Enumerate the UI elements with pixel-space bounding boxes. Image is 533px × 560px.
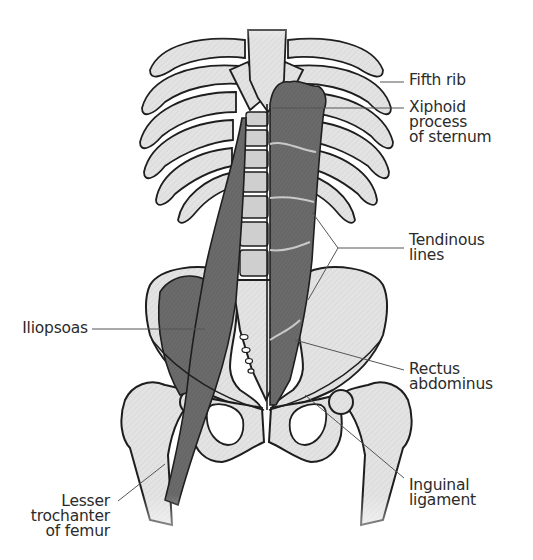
anatomy-diagram: Fifth rib Xiphoid process of sternum Ten… xyxy=(0,0,533,560)
label-rectus-abdominus: Rectus abdominus xyxy=(409,362,493,392)
label-inguinal-ligament: Inguinal ligament xyxy=(409,478,476,508)
label-fifth-rib: Fifth rib xyxy=(409,73,466,88)
label-tendinous-lines: Tendinous lines xyxy=(409,233,485,263)
label-iliopsoas: Iliopsoas xyxy=(14,321,88,336)
label-lesser-trochanter: Lesser trochanter of femur xyxy=(0,494,110,539)
label-xiphoid-process: Xiphoid process of sternum xyxy=(409,100,491,145)
obturator-foramen xyxy=(207,404,327,445)
